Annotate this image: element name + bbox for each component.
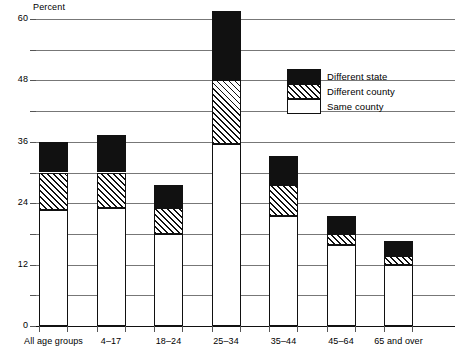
bar-segment-different-county[interactable] bbox=[154, 208, 183, 234]
legend-swatch-different-state bbox=[287, 69, 321, 84]
bar-segment-different-county[interactable] bbox=[212, 80, 241, 144]
legend-item: Different county bbox=[287, 84, 395, 99]
bar-segment-same-county[interactable] bbox=[327, 245, 356, 326]
bar-all-age-groups[interactable] bbox=[39, 19, 68, 326]
y-axis-tick-mark bbox=[30, 19, 36, 20]
x-axis-tick-mark bbox=[327, 326, 328, 332]
axis-baseline bbox=[36, 326, 455, 327]
bar-25-34[interactable] bbox=[212, 19, 241, 326]
x-axis-tick-mark bbox=[97, 326, 98, 332]
y-axis-tick-mark bbox=[30, 295, 36, 296]
y-axis-tick-mark bbox=[30, 142, 36, 143]
y-axis-tick-mark bbox=[30, 265, 36, 266]
bar-segment-different-state[interactable] bbox=[212, 11, 241, 80]
bar-segment-different-state[interactable] bbox=[269, 156, 298, 186]
y-axis-tick-mark bbox=[30, 80, 36, 81]
y-axis-tick-mark bbox=[30, 173, 36, 174]
y-axis-tick-label: 12 bbox=[2, 259, 28, 269]
legend-label: Same county bbox=[327, 101, 384, 112]
x-axis-tick-mark bbox=[67, 326, 68, 332]
bar-18-24[interactable] bbox=[154, 19, 183, 326]
legend-swatch-different-county bbox=[287, 84, 321, 99]
y-axis-tick-mark bbox=[30, 50, 36, 51]
y-axis-tick-label: 48 bbox=[2, 74, 28, 84]
y-axis-tick-mark bbox=[30, 326, 36, 327]
bar-45-64[interactable] bbox=[327, 19, 356, 326]
x-axis-tick-label: 65 and over bbox=[374, 336, 423, 346]
bar-segment-same-county[interactable] bbox=[154, 234, 183, 326]
x-axis-tick-mark bbox=[182, 326, 183, 332]
y-axis-tick-label: 0 bbox=[2, 320, 28, 330]
legend-item: Different state bbox=[287, 69, 395, 84]
x-axis-tick-mark bbox=[355, 326, 356, 332]
legend-label: Different county bbox=[327, 86, 395, 97]
bar-segment-same-county[interactable] bbox=[39, 210, 68, 326]
x-axis-tick-mark bbox=[412, 326, 413, 332]
y-axis-tick-label: 36 bbox=[2, 136, 28, 146]
legend-item: Same county bbox=[287, 99, 395, 114]
legend-label: Different state bbox=[327, 71, 387, 82]
x-axis-tick-mark bbox=[212, 326, 213, 332]
stacked-bar-chart: Percent 01224364860 All age groups4–1718… bbox=[0, 0, 464, 355]
x-axis-tick-label: All age groups bbox=[24, 336, 83, 346]
x-axis-tick-mark bbox=[125, 326, 126, 332]
bar-segment-different-county[interactable] bbox=[384, 256, 413, 265]
bar-segment-different-state[interactable] bbox=[327, 216, 356, 234]
x-axis-tick-mark bbox=[154, 326, 155, 332]
bar-35-44[interactable] bbox=[269, 19, 298, 326]
y-axis-title: Percent bbox=[33, 2, 65, 12]
bar-4-17[interactable] bbox=[97, 19, 126, 326]
y-axis-tick-mark bbox=[30, 234, 36, 235]
x-axis-tick-mark bbox=[297, 326, 298, 332]
bar-segment-different-county[interactable] bbox=[327, 234, 356, 245]
chart-legend: Different stateDifferent countySame coun… bbox=[287, 69, 395, 114]
x-axis-tick-label: 4–17 bbox=[101, 336, 121, 346]
bar-segment-different-county[interactable] bbox=[269, 185, 298, 216]
x-axis-tick-label: 45–64 bbox=[328, 336, 354, 346]
y-axis-tick-label: 60 bbox=[2, 13, 28, 23]
bar-segment-different-state[interactable] bbox=[97, 135, 126, 172]
x-axis-tick-mark bbox=[240, 326, 241, 332]
bar-segment-same-county[interactable] bbox=[97, 208, 126, 326]
bar-65-and-over[interactable] bbox=[384, 19, 413, 326]
bar-segment-same-county[interactable] bbox=[212, 144, 241, 326]
y-axis-tick-label: 24 bbox=[2, 197, 28, 207]
bar-segment-different-state[interactable] bbox=[39, 142, 68, 173]
y-axis-tick-mark bbox=[30, 203, 36, 204]
bar-segment-different-county[interactable] bbox=[97, 173, 126, 209]
x-axis-tick-label: 35–44 bbox=[271, 336, 297, 346]
x-axis-tick-mark bbox=[384, 326, 385, 332]
x-axis-tick-mark bbox=[269, 326, 270, 332]
bar-segment-same-county[interactable] bbox=[269, 216, 298, 326]
bar-segment-different-state[interactable] bbox=[384, 241, 413, 256]
x-axis-tick-mark bbox=[39, 326, 40, 332]
x-axis-tick-label: 18–24 bbox=[156, 336, 182, 346]
y-axis-tick-mark bbox=[30, 111, 36, 112]
x-axis-tick-label: 25–34 bbox=[213, 336, 239, 346]
bar-segment-same-county[interactable] bbox=[384, 265, 413, 326]
legend-swatch-same-county bbox=[287, 99, 321, 114]
bar-segment-different-state[interactable] bbox=[154, 185, 183, 208]
bar-segment-different-county[interactable] bbox=[39, 173, 68, 211]
plot-area bbox=[36, 19, 455, 326]
